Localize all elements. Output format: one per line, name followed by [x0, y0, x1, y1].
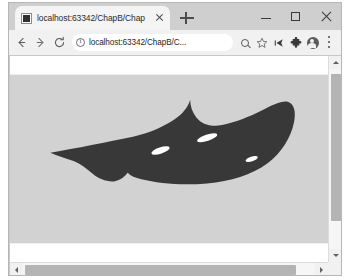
reload-glyph [53, 36, 66, 49]
new-tab-button[interactable] [179, 10, 195, 26]
cast-glyph [273, 37, 285, 49]
browser-tab[interactable]: localhost:63342/ChapB/Chap [15, 6, 170, 30]
page-favicon-icon [21, 13, 32, 24]
close-window-button[interactable] [311, 6, 341, 28]
tab-strip: localhost:63342/ChapB/Chap [9, 3, 341, 30]
forward-arrow-glyph [34, 36, 47, 49]
scroll-up-icon[interactable] [329, 56, 341, 69]
kebab-glyph [328, 36, 331, 49]
bookmark-star-icon[interactable] [253, 33, 270, 52]
minimize-button[interactable] [251, 6, 281, 28]
back-arrow-glyph [15, 36, 28, 49]
dark-organic-silhouette [10, 56, 328, 262]
browser-window: localhost:63342/ChapB/Chap [8, 2, 342, 276]
scroll-down-icon[interactable] [329, 249, 341, 262]
chrome-menu-icon[interactable] [321, 33, 338, 52]
browser-toolbar: localhost:63342/ChapB/C... [9, 30, 341, 56]
horizontal-scrollbar-thumb[interactable] [25, 265, 296, 275]
profile-avatar-icon[interactable] [304, 33, 321, 52]
scroll-left-icon[interactable] [10, 263, 23, 275]
back-icon[interactable] [12, 33, 31, 52]
horizontal-scrollbar[interactable] [10, 262, 328, 275]
avatar-glyph [307, 37, 319, 49]
site-info-icon[interactable] [76, 38, 85, 47]
cast-icon[interactable] [270, 33, 287, 52]
scroll-right-icon[interactable] [315, 263, 328, 275]
address-bar[interactable]: localhost:63342/ChapB/C... [72, 34, 233, 51]
puzzle-glyph [290, 37, 302, 49]
magnifier-glyph [241, 39, 249, 47]
star-glyph [256, 37, 268, 49]
reload-icon[interactable] [50, 33, 69, 52]
tab-title: localhost:63342/ChapB/Chap [37, 13, 152, 23]
extensions-puzzle-icon[interactable] [287, 33, 304, 52]
zoom-icon[interactable] [236, 33, 253, 52]
address-bar-url: localhost:63342/ChapB/C... [89, 38, 186, 47]
web-page-content [10, 56, 328, 262]
browser-viewport [9, 56, 341, 275]
forward-icon[interactable] [31, 33, 50, 52]
window-controls [251, 3, 341, 30]
vertical-scrollbar-thumb[interactable] [331, 74, 341, 221]
close-tab-icon[interactable] [154, 12, 166, 24]
maximize-button[interactable] [281, 6, 311, 28]
vertical-scrollbar[interactable] [328, 56, 341, 262]
scrollbar-corner [328, 262, 341, 275]
